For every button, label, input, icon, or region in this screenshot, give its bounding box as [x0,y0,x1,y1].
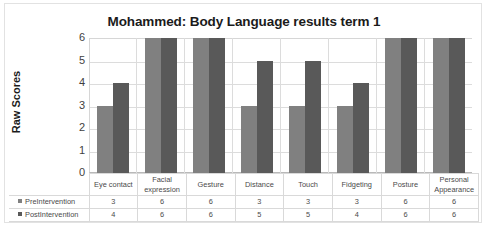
table-cell-post-7: 6 [430,209,479,222]
legend-label-pre: PreIntervention [25,197,75,206]
y-tick-2: 2 [65,121,85,133]
table-row-post: PostIntervention 46655466 [9,209,479,222]
bar-post-7[interactable] [449,38,465,173]
bars-layer [89,38,472,173]
bar-group-1 [136,38,184,173]
table-cell-post-1: 6 [138,209,187,222]
bar-pre-4[interactable] [289,106,305,174]
chart-data-table: Eye contactFacial expressionGestureDista… [9,173,479,222]
table-row-categories: Eye contactFacial expressionGestureDista… [9,174,479,196]
bar-pre-5[interactable] [337,106,353,174]
table-header-6: Posture [381,174,430,196]
bar-post-2[interactable] [209,38,225,173]
bar-group-6 [376,38,424,173]
bar-group-5 [328,38,376,173]
bar-post-5[interactable] [353,83,369,173]
table-cell-pre-3: 3 [235,196,284,209]
table-cell-post-2: 6 [186,209,235,222]
table-cell-pre-4: 3 [284,196,333,209]
table-cell-pre-5: 3 [332,196,381,209]
y-tick-3: 3 [65,99,85,111]
legend-item-pre[interactable]: PreIntervention [9,196,89,209]
y-axis-tick-labels: 6543210 [61,38,85,173]
bar-post-6[interactable] [401,38,417,173]
legend-label-post: PostIntervention [25,210,78,219]
table-corner-cell [9,174,89,196]
bar-pre-3[interactable] [241,106,257,174]
legend-swatch-pre-icon [18,199,22,203]
table-cell-post-5: 4 [332,209,381,222]
bar-post-1[interactable] [161,38,177,173]
bar-pre-0[interactable] [97,106,113,174]
bar-group-3 [232,38,280,173]
bar-pre-2[interactable] [193,38,209,173]
table-cell-pre-1: 6 [138,196,187,209]
y-tick-1: 1 [65,144,85,156]
table-cell-post-6: 6 [381,209,430,222]
table-header-3: Distance [235,174,284,196]
table-header-1: Facial expression [138,174,187,196]
legend-swatch-post-icon [18,212,22,216]
bar-group-4 [280,38,328,173]
plot-area-wrapper [89,38,472,173]
legend-item-post[interactable]: PostIntervention [9,209,89,222]
table-cell-pre-0: 3 [89,196,138,209]
bar-post-4[interactable] [305,61,321,174]
bar-pre-1[interactable] [145,38,161,173]
table-row-pre: PreIntervention 36633366 [9,196,479,209]
y-tick-5: 5 [65,54,85,66]
bar-pre-6[interactable] [385,38,401,173]
table-cell-post-3: 5 [235,209,284,222]
bar-post-0[interactable] [113,83,129,173]
bar-group-2 [184,38,232,173]
table-header-4: Touch [284,174,333,196]
y-axis-title: Raw Scores [9,62,23,142]
y-axis-title-label: Raw Scores [10,71,22,133]
chart-container: Mohammed: Body Language results term 1 R… [4,3,482,223]
table-cell-post-4: 5 [284,209,333,222]
chart-title: Mohammed: Body Language results term 1 [5,14,483,29]
table-header-7: Personal Appearance [430,174,479,196]
table-cell-pre-2: 6 [186,196,235,209]
y-tick-4: 4 [65,76,85,88]
table-header-2: Gesture [186,174,235,196]
table-header-0: Eye contact [89,174,138,196]
data-table: Eye contactFacial expressionGestureDista… [9,173,479,222]
y-tick-6: 6 [65,31,85,43]
bar-group-0 [89,38,136,173]
table-cell-pre-7: 6 [430,196,479,209]
bar-group-7 [424,38,472,173]
table-cell-post-0: 4 [89,209,138,222]
bar-post-3[interactable] [257,61,273,174]
table-cell-pre-6: 6 [381,196,430,209]
bar-pre-7[interactable] [433,38,449,173]
table-header-5: Fidgeting [332,174,381,196]
